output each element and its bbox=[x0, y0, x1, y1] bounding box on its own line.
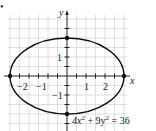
y-axis-arrow-icon bbox=[65, 10, 68, 15]
x-axis-label: x bbox=[129, 75, 135, 86]
equation-label: 4x2 + 9y2 = 36 bbox=[72, 114, 130, 126]
x-tick-2: 2 bbox=[103, 81, 108, 92]
ellipse-chart: • bbox=[0, 0, 156, 131]
vertex-bottom bbox=[65, 112, 69, 116]
bullet-marker: • bbox=[0, 1, 4, 12]
y-tick-1: 1 bbox=[57, 52, 62, 63]
y-tick-minus-1: −1 bbox=[52, 90, 63, 101]
x-tick-minus-2: −2 bbox=[17, 81, 28, 92]
vertex-right bbox=[122, 74, 126, 78]
x-tick-minus-1: −1 bbox=[36, 81, 47, 92]
y-axis-label: y bbox=[58, 7, 64, 18]
x-tick-1: 1 bbox=[84, 81, 89, 92]
vertex-top bbox=[65, 36, 69, 40]
vertex-left bbox=[8, 74, 12, 78]
